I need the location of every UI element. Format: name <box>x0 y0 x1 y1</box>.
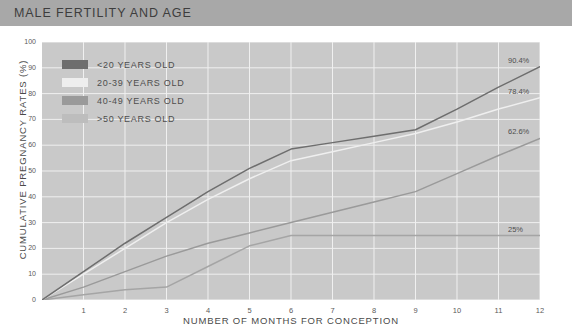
y-tick-label: 30 <box>6 219 36 226</box>
y-tick-label: 80 <box>6 90 36 97</box>
legend-swatch-40-49 <box>62 96 88 105</box>
y-tick-label: 90 <box>6 64 36 71</box>
y-tick-label: 40 <box>6 193 36 200</box>
legend-label-40-49: 40-49 YEARS OLD <box>97 96 184 106</box>
header-spacer <box>0 26 572 34</box>
legend-label-under-20: <20 YEARS OLD <box>97 60 175 70</box>
y-tick-label: 50 <box>6 167 36 174</box>
x-tick-label: 2 <box>113 306 137 315</box>
x-tick-label: 4 <box>196 306 220 315</box>
x-axis-title: NUMBER OF MONTHS FOR CONCEPTION <box>42 315 540 326</box>
y-tick-label: 10 <box>6 270 36 277</box>
legend-label-over-50: >50 YEARS OLD <box>97 114 175 124</box>
x-tick-label: 12 <box>528 306 552 315</box>
legend-swatch-over-50 <box>62 114 88 123</box>
y-tick-label: 100 <box>6 38 36 45</box>
legend-swatch-20-39 <box>62 78 88 87</box>
x-tick-label: 5 <box>238 306 262 315</box>
legend-item: >50 YEARS OLD <box>62 110 184 127</box>
x-tick-label: 10 <box>445 306 469 315</box>
x-tick-label: 7 <box>321 306 345 315</box>
x-tick-label: 3 <box>155 306 179 315</box>
legend-item: <20 YEARS OLD <box>62 56 184 73</box>
y-tick-label: 0 <box>6 296 36 303</box>
y-tick-label: 20 <box>6 244 36 251</box>
legend-label-20-39: 20-39 YEARS OLD <box>97 78 184 88</box>
y-axis-title: CUMULATIVE PREGNANCY RATES (%) <box>17 45 28 275</box>
legend-swatch-under-20 <box>62 60 88 69</box>
chart-page: MALE FERTILITY AND AGE CUMULATIVE PREGNA… <box>0 0 572 329</box>
header-bar: MALE FERTILITY AND AGE <box>0 0 572 26</box>
series-end-label: 25% <box>508 225 523 234</box>
y-tick-label: 60 <box>6 141 36 148</box>
x-tick-label: 6 <box>279 306 303 315</box>
x-tick-label: 8 <box>362 306 386 315</box>
legend: <20 YEARS OLD 20-39 YEARS OLD 40-49 YEAR… <box>62 56 184 128</box>
legend-item: 20-39 YEARS OLD <box>62 74 184 91</box>
x-tick-label: 9 <box>404 306 428 315</box>
chart-container: CUMULATIVE PREGNANCY RATES (%) NUMBER OF… <box>0 34 572 329</box>
x-tick-label: 11 <box>487 306 511 315</box>
series-end-label: 62.6% <box>508 127 529 136</box>
page-title: MALE FERTILITY AND AGE <box>14 6 192 20</box>
x-tick-label: 1 <box>72 306 96 315</box>
legend-item: 40-49 YEARS OLD <box>62 92 184 109</box>
series-end-label: 78.4% <box>508 87 529 96</box>
series-end-label: 90.4% <box>508 56 529 65</box>
y-tick-label: 70 <box>6 115 36 122</box>
